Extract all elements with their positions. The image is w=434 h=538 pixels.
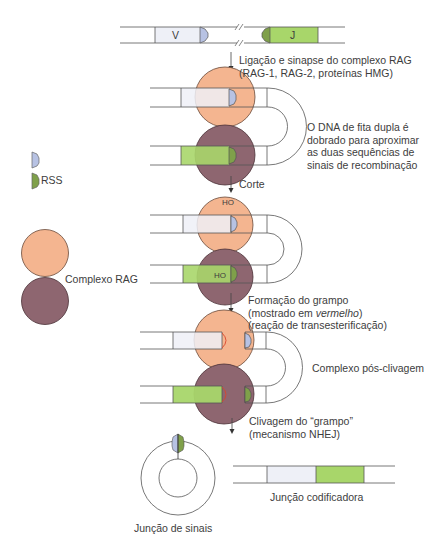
rss-green-legend-icon xyxy=(32,173,39,189)
folding-note-line-2: dobrado para aproximar xyxy=(307,134,419,147)
signal-joint-label: Junção de sinais xyxy=(134,522,212,535)
rag-orange-legend-icon xyxy=(22,230,69,277)
rss-green-icon xyxy=(262,27,270,43)
synapse-stage xyxy=(150,67,306,185)
ho-bottom-label: HO xyxy=(214,270,226,283)
ho-top-label: HO xyxy=(222,197,234,210)
vdj-recombination-diagram xyxy=(0,0,434,538)
rag-purple-legend-icon xyxy=(22,278,69,325)
rss-blue-legend-icon xyxy=(32,152,39,168)
folding-note-line-1: O DNA de fita dupla é xyxy=(307,121,419,134)
coding-joint-label: Junção codificadora xyxy=(270,491,363,504)
step-4-label: Clivagem do “grampo” (mecanismo NHEJ) xyxy=(249,415,353,440)
step-1-label: Ligação e sinapse do complexo RAG (RAG-1… xyxy=(239,54,412,79)
step-3-line-1: Formação do grampo xyxy=(248,294,387,307)
folding-note: O DNA de fita dupla é dobrado para aprox… xyxy=(307,121,419,171)
step-1-line-1: Ligação e sinapse do complexo RAG xyxy=(239,54,412,67)
rss-blue-icon xyxy=(200,27,208,43)
nick-stage xyxy=(150,197,302,305)
rag-legend-label: Complexo RAG xyxy=(65,273,138,286)
step-4-line-2: (mecanismo NHEJ) xyxy=(249,428,353,441)
step-4-line-1: Clivagem do “grampo” xyxy=(249,415,353,428)
step-3-label: Formação do grampo (mostrado em vermelho… xyxy=(248,294,387,332)
step-2-label: Corte xyxy=(239,178,265,191)
rss-legend-label: RSS xyxy=(41,174,63,187)
v-segment-label: V xyxy=(172,29,179,42)
coding-joint xyxy=(233,466,395,483)
step-3-line-2: (mostrado em vermelho) xyxy=(248,307,387,320)
folding-note-line-4: sinais de recombinação xyxy=(307,159,419,172)
folding-note-line-3: as duas sequências de xyxy=(307,146,419,159)
step-1-line-2: (RAG-1, RAG-2, proteínas HMG) xyxy=(239,67,412,80)
j-segment-label: J xyxy=(290,29,295,42)
germline-dna xyxy=(120,24,345,46)
step-3-line-3: (reação de transesterificação) xyxy=(248,319,387,332)
post-cleavage-label: Complexo pós-clivagem xyxy=(312,362,424,375)
signal-joint xyxy=(141,434,215,515)
